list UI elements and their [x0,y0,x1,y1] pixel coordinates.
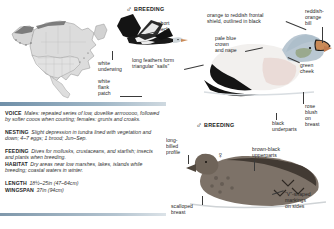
info-row-length: LENGTH18½–25in (47–64cm) [5,180,163,186]
info-value-length: 18½–25in (47–64cm) [29,180,78,186]
info-row-feeding: FEEDINGDives for mollusks, crustaceans, … [5,148,163,161]
leader-white-flank-patch [120,96,142,97]
callout-white-flank-patch: white flank patch [98,78,111,96]
callout-frontal-shield: orange to reddish frontal shield, outlin… [207,12,263,24]
leader-brown-black-upperparts [254,159,255,171]
callout-white-underwing: white underwing [98,60,122,72]
callout-scalloped-breast: scalloped breast [171,203,193,215]
callout-pale-blue-crown: pale blue crown and nape [215,35,237,53]
info-value-wingspan: 37in (94cm) [36,187,63,193]
female-symbol-icon: ♀ [217,150,224,160]
info-key-length: LENGTH [5,180,27,186]
callout-brown-black-upperparts: brown-black upperparts [252,146,280,158]
callout-short-neck: short neck [158,20,170,32]
leader-white-underwing [112,51,113,60]
species-info-panel: VOICEMales: repeated series of low, dove… [0,107,166,215]
callout-long-billed-profile: long- billed profile [166,137,180,155]
callout-reddish-orange-bill: reddish- orange bill [305,8,324,26]
info-key-feeding: FEEDING [5,148,29,154]
swimming-male-status-label: BREEDING [204,122,234,128]
info-key-wingspan: WINGSPAN [5,187,34,193]
info-key-voice: VOICE [5,110,22,116]
field-guide-page: ♂ BREEDING short neck white underwing wh… [0,0,334,229]
leader-reddish-orange-bill [322,27,323,43]
flying-male-sex-tag: ♂ BREEDING [126,5,164,14]
info-value-voice: Males: repeated series of low, dovelike … [5,110,159,122]
leader-black-underparts [276,113,277,120]
range-map-graphic [8,12,112,102]
info-row-wingspan: WINGSPAN37in (94cm) [5,187,163,193]
swimming-male-sex-tag: ♂ BREEDING [196,121,234,130]
callout-v-shaped-markings: “V”-shaped markings on sides [285,191,311,209]
leader-rose-blush-breast [303,92,304,104]
info-key-habitat: HABITAT [5,161,28,167]
leader-long-billed-profile [188,155,189,164]
callout-long-feathers-sails: long feathers form triangular “sails” [132,57,174,69]
male-symbol-icon-2: ♂ [196,121,202,130]
male-symbol-icon: ♂ [126,5,132,14]
info-row-nesting: NESTINGSlight depression in tundra lined… [5,129,163,142]
leader-scalloped-breast [202,196,203,205]
callout-rose-blush-breast: rose blush on breast [305,103,319,127]
info-row-habitat: HABITATDry areas near low marshes, lakes… [5,161,163,174]
info-panel-bottom-rule [0,213,166,216]
callout-black-underparts: black underparts [272,120,297,132]
info-panel-top-rule [0,102,166,106]
info-row-voice: VOICEMales: repeated series of low, dove… [5,110,163,123]
info-key-nesting: NESTING [5,129,29,135]
range-map [8,12,112,102]
callout-green-cheek: green cheek [300,62,314,74]
flying-male-status-label: BREEDING [134,6,164,12]
